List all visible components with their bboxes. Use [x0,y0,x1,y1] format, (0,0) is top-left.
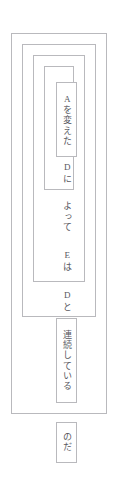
label-yotte-text: よって [62,201,71,233]
cell-a-wo-kaeta: Aを変えた [56,82,77,157]
cell-renzoku-shite-iru-text: 連続している [62,330,71,391]
label-e-wa-text: Eは [62,250,71,272]
cell-noda: のだ [56,422,77,463]
label-d-to: Dと [56,286,77,316]
cell-noda-text: のだ [62,432,71,452]
label-e-wa: Eは [56,246,77,276]
diagram-canvas: Aを変えた Dに よって Eは Dと 連続している のだ [0,0,118,481]
label-d-to-text: Dと [62,290,71,312]
label-d-ni-text: Dに [62,162,71,184]
cell-a-wo-kaeta-text: Aを変えた [62,94,71,146]
label-yotte: よって [56,194,77,240]
cell-renzoku-shite-iru: 連続している [56,318,77,403]
label-d-ni: Dに [56,158,77,188]
